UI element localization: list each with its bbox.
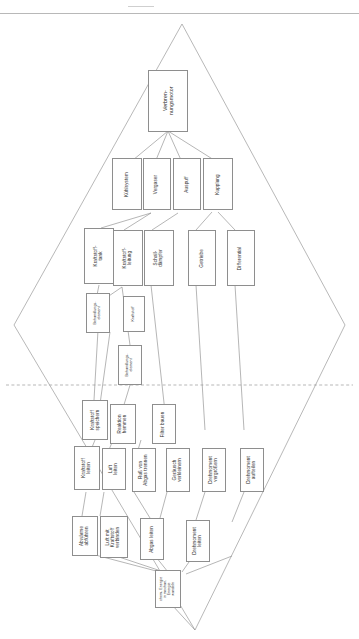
node-verbrennungsmotor[interactable]: Verbren- nungsmotor	[148, 70, 188, 132]
node-label: Kraftstoff leiten	[82, 458, 92, 478]
node-abwaerme-abfuehren[interactable]: Abwärme abführen	[72, 516, 98, 556]
node-label: Reaktion hemmen	[118, 414, 128, 433]
node-label: Drehmoment aufteilen	[247, 456, 257, 484]
node-reaktion-hemmen[interactable]: Reaktion hemmen	[110, 404, 136, 444]
node-kraftstoff[interactable]: Kraftstoff	[123, 296, 145, 332]
node-label: Ruß von Abgas trennen	[139, 454, 149, 485]
node-kraftstofftank[interactable]: Kraftstoff- tank	[84, 228, 114, 284]
node-schalldaempfer[interactable]: Schall- dämpfer	[144, 230, 174, 286]
node-luft-leiten[interactable]: Luft leiten	[102, 448, 126, 490]
node-label: Luft leiten	[109, 463, 119, 475]
node-behandlungselement-1[interactable]: Behandlungs- element	[86, 293, 110, 333]
node-kupplung[interactable]: Kupplung	[203, 158, 233, 210]
node-label: Kraftstoff speichern	[90, 410, 100, 431]
node-label: Vergaser	[155, 174, 160, 193]
node-label: Kraftstoff	[132, 306, 136, 321]
node-geraeusch-verkleinern[interactable]: Geräusch verkleinern	[166, 448, 190, 492]
node-label: Behandlungs- element	[94, 301, 102, 324]
node-drehmoment-vergroessern[interactable]: Drehmoment vergrößern	[202, 448, 226, 492]
node-label: Verbren- nungsmotor	[162, 87, 173, 116]
node-label: Differential	[239, 246, 244, 269]
node-label: Abgas leiten	[150, 526, 155, 553]
node-filter-bauen[interactable]: Filter bauen	[152, 404, 176, 444]
node-label: Luft mit Kraftstoff verbinden	[107, 526, 122, 547]
node-label: Behandlungs- element	[126, 353, 134, 376]
node-abgas-leiten[interactable]: Abgas leiten	[140, 518, 164, 560]
node-label: Getriebe	[200, 249, 205, 268]
node-behandlungselement-2[interactable]: Behandlungs- element	[118, 345, 142, 385]
node-label: Drehmoment leiten	[193, 527, 203, 555]
node-luft-kraftstoff-verbinden[interactable]: Luft mit Kraftstoff verbinden	[100, 516, 128, 558]
node-drehmoment-aufteilen[interactable]: Drehmoment aufteilen	[240, 448, 264, 492]
node-kraftstoff-speichern[interactable]: Kraftstoff speichern	[82, 400, 108, 440]
node-auspuff[interactable]: Auspuff	[173, 158, 201, 210]
node-label: Kraftstoff- tank	[94, 245, 104, 266]
node-russ-abgas-trennen[interactable]: Ruß von Abgas trennen	[132, 448, 156, 492]
node-label: chem. Energie in mechan. Energie wandeln	[160, 577, 176, 601]
node-label: Geräusch verkleinern	[173, 458, 183, 482]
node-kuehlsystem[interactable]: Kühlsystem	[112, 158, 142, 210]
node-vergaser[interactable]: Vergaser	[143, 158, 171, 210]
diagram-canvas: Verbren- nungsmotor Kühlsystem Vergaser …	[0, 0, 359, 639]
node-label: Drehmoment vergrößern	[209, 456, 219, 484]
node-label: Kraftstoff- leitung	[123, 247, 133, 268]
node-energie-wandeln[interactable]: chem. Energie in mechan. Energie wandeln	[155, 570, 181, 608]
node-getriebe[interactable]: Getriebe	[188, 230, 216, 286]
node-kraftstoffleitung[interactable]: Kraftstoff- leitung	[113, 230, 143, 286]
node-drehmoment-leiten[interactable]: Drehmoment leiten	[186, 520, 210, 562]
node-label: Kühlsystem	[125, 172, 130, 197]
node-label: Auspuff	[185, 176, 190, 192]
node-label: Schall- dämpfer	[154, 249, 164, 267]
node-label: Kupplung	[216, 174, 221, 194]
node-differential[interactable]: Differential	[227, 230, 255, 286]
node-label: Abwärme abführen	[80, 526, 90, 546]
node-kraftstoff-leiten[interactable]: Kraftstoff leiten	[74, 446, 100, 490]
node-label: Filter bauen	[162, 411, 167, 437]
